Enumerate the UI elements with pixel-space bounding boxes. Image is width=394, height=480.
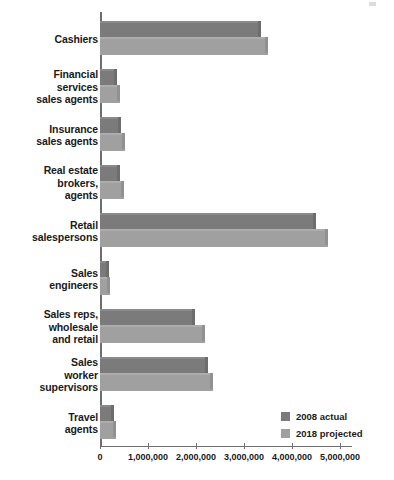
bar-side-bevel [205,357,208,373]
bar-2018 [100,87,120,103]
axis-tick [100,443,101,449]
bar-top-bevel [100,229,325,232]
category-axis-line [100,446,352,447]
bar-top-bevel [100,309,192,312]
bar-top-bevel [100,213,313,216]
legend-label: 2018 projected [296,428,363,439]
bar-side-bevel [192,309,195,325]
bar-2018 [100,183,124,199]
chart-legend: 2008 actual2018 projected [281,409,363,443]
axis-tick-label: 2,000,000 [176,452,216,462]
legend-swatch-icon [281,412,290,421]
bar-side-bevel [265,37,268,53]
bar-side-bevel [121,181,124,197]
bar-top-bevel [100,405,111,408]
bar-side-bevel [111,405,114,421]
bar-side-bevel [325,229,328,245]
category-label: Financial services sales agents [36,68,98,106]
axis-tick [292,443,293,449]
bar-top-bevel [100,165,117,168]
bar-side-bevel [106,261,109,277]
bar-2018 [100,375,213,391]
category-label: Sales reps, wholesale and retail [44,308,98,346]
axis-tick-label: 3,000,000 [224,452,264,462]
bar-face [100,327,205,343]
bar-side-bevel [202,325,205,341]
bar-side-bevel [122,133,125,149]
bar-side-bevel [114,69,117,85]
legend-item: 2018 projected [281,426,363,441]
bar-top-bevel [100,277,107,280]
bar-side-bevel [210,373,213,389]
legend-label: 2008 actual [296,411,347,422]
axis-tick [340,443,341,449]
bar-face [100,375,213,391]
bar-top-bevel [100,21,258,24]
category-label: Real estate brokers, agents [44,164,98,202]
bar-top-bevel [100,85,117,88]
category-label: Cashiers [54,33,98,46]
bar-face [100,39,268,55]
bar-2018 [100,135,125,151]
axis-tick-label: 0 [97,452,102,462]
bar-face [100,231,328,247]
bar-side-bevel [107,277,110,293]
bar-top-bevel [100,181,121,184]
category-label: Sales worker supervisors [40,356,98,394]
bar-side-bevel [117,165,120,181]
bar-top-bevel [100,117,118,120]
bar-top-bevel [100,373,210,376]
category-label: Travel agents [65,411,98,436]
bar-side-bevel [117,85,120,101]
bar-top-bevel [100,133,122,136]
bar-2018 [100,39,268,55]
category-label: Retail salespersons [32,219,98,244]
bar-2018 [100,423,116,439]
bar-side-bevel [113,421,116,437]
axis-tick-label: 5,000,000 [320,452,360,462]
bar-top-bevel [100,421,113,424]
bar-2018 [100,327,205,343]
axis-tick [244,443,245,449]
bar-chart: CashiersFinancial services sales agentsI… [0,0,394,480]
bar-top-bevel [100,325,202,328]
bar-2018 [100,231,328,247]
bar-top-bevel [100,69,114,72]
category-label: Insurance sales agents [36,123,98,148]
axis-tick [196,443,197,449]
bar-top-bevel [100,357,205,360]
bar-2018 [100,279,110,295]
axis-tick-label: 4,000,000 [272,452,312,462]
bar-side-bevel [258,21,261,37]
bar-side-bevel [118,117,121,133]
bar-top-bevel [100,37,265,40]
axis-tick [148,443,149,449]
legend-swatch-icon [281,429,290,438]
bar-side-bevel [313,213,316,229]
axis-tick-label: 1,000,000 [128,452,168,462]
legend-item: 2008 actual [281,409,363,424]
category-label: Sales engineers [49,267,98,292]
page-corner-artifact [369,2,376,6]
